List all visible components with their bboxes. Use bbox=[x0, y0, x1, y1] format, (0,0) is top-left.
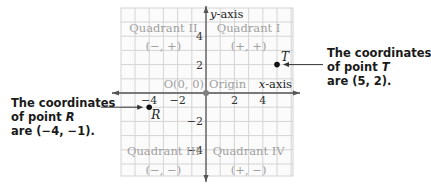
quadrant-iii-signs: (−, −) bbox=[146, 163, 182, 177]
quadrant-ii-label: Quadrant II bbox=[129, 21, 197, 35]
origin-point bbox=[203, 90, 209, 96]
callout-r-variable: R bbox=[66, 110, 75, 124]
callout-t-line1: The coordinates bbox=[327, 46, 431, 60]
origin-label: Origin bbox=[209, 77, 247, 91]
quadrant-iii-label: Quadrant III bbox=[127, 144, 200, 158]
callout-r-line1: The coordinates bbox=[11, 96, 115, 110]
y-tick-label: 2 bbox=[196, 59, 203, 72]
x-axis-right-arrow-icon bbox=[293, 91, 300, 96]
quadrant-i-signs: (+, +) bbox=[231, 39, 267, 53]
point-r-label: R bbox=[150, 108, 160, 122]
x-axis-left-arrow-icon bbox=[112, 91, 119, 96]
callout-t-variable: T bbox=[382, 60, 390, 74]
x-axis-label: x-axis bbox=[259, 77, 292, 91]
y-axis-down-arrow-icon bbox=[204, 175, 209, 182]
point-t bbox=[274, 62, 280, 68]
y-tick-label: −2 bbox=[187, 115, 203, 128]
point-t-label: T bbox=[281, 50, 290, 64]
callout-r-line2: of point bbox=[11, 110, 66, 124]
x-tick-label: −2 bbox=[169, 94, 185, 107]
y-axis-label: y-axis bbox=[209, 7, 243, 21]
callout-t-line3: are (5, 2). bbox=[327, 74, 431, 88]
x-tick-label: 2 bbox=[231, 94, 238, 107]
quadrant-ii-signs: (−, +) bbox=[146, 39, 182, 53]
callout-point-t: The coordinates of point T are (5, 2). bbox=[327, 46, 431, 88]
callout-t-line2: of point bbox=[327, 60, 382, 74]
quadrant-i-label: Quadrant I bbox=[217, 21, 281, 35]
callout-r-line3: are (−4, −1). bbox=[11, 124, 115, 138]
origin-coordinates-label: O(0, 0) bbox=[164, 77, 204, 91]
quadrant-iv-signs: (+, −) bbox=[231, 163, 267, 177]
callout-point-r: The coordinates of point R are (−4, −1). bbox=[11, 96, 115, 138]
x-tick-label: 4 bbox=[259, 94, 266, 107]
quadrant-iv-label: Quadrant IV bbox=[213, 144, 286, 158]
